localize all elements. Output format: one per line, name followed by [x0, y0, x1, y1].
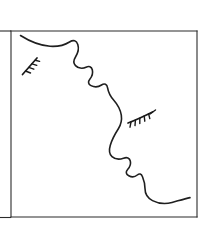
canvas-background — [0, 0, 209, 233]
face-profile-illustration — [0, 0, 209, 233]
figure-root — [0, 0, 209, 233]
right-eyelash-hair-1 — [130, 122, 131, 127]
right-eyelash-hair-4 — [144, 116, 145, 121]
